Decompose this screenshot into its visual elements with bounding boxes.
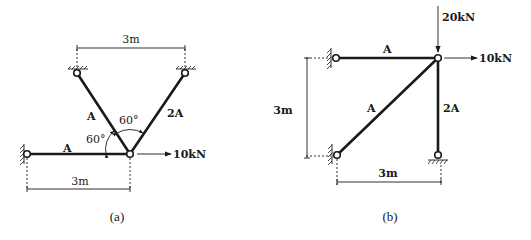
figure-caption-a: (a) — [110, 209, 124, 224]
angle-arc-top — [117, 130, 143, 133]
pin-joint — [74, 70, 81, 77]
dimension-label: 3m — [71, 175, 89, 188]
pin-joint — [182, 70, 189, 77]
load-label-vertical: 20kN — [442, 11, 475, 24]
dimension-label: 3m — [378, 167, 398, 180]
dimension-bottom-a: 3m — [27, 158, 130, 192]
angle-label-top: 60° — [119, 114, 139, 127]
load-label: 10kN — [173, 148, 206, 161]
member-diagonal-b — [337, 58, 438, 155]
pin-joint — [435, 152, 442, 159]
ground-support-b — [428, 160, 448, 164]
dimension-left-b: 3m — [273, 58, 331, 158]
figure-caption-b: (b) — [382, 209, 397, 224]
load-label-horizontal: 10kN — [479, 52, 512, 65]
area-label-vertical: 2A — [443, 102, 460, 115]
pin-joint — [127, 151, 134, 158]
dimension-top-a: 3m — [77, 33, 185, 68]
truss-diagrams: 3m — [0, 0, 531, 240]
dimension-label: 3m — [273, 104, 293, 117]
figure-a: 3m — [20, 33, 206, 224]
dimension-bottom-b: 3m — [337, 159, 441, 185]
area-label-diagonal: A — [366, 102, 376, 115]
area-label-left-inclined: A — [86, 110, 96, 123]
pin-joint — [333, 55, 340, 62]
angle-arc-left — [106, 131, 114, 154]
area-label-horizontal: A — [62, 142, 72, 155]
area-label-top-horizontal: A — [382, 43, 392, 56]
pin-joint — [334, 152, 341, 159]
ceiling-support-left — [68, 66, 88, 69]
area-label-right-inclined: 2A — [167, 107, 184, 120]
figure-b: A A 2A 20kN 10kN 3m 3m — [273, 6, 512, 224]
pin-joint — [435, 55, 442, 62]
wall-support-bottom-b — [328, 144, 332, 165]
angle-label-left: 60° — [86, 133, 106, 146]
dimension-label: 3m — [122, 33, 140, 46]
ceiling-support-right — [176, 66, 196, 69]
wall-support-top-b — [327, 48, 331, 69]
pin-joint — [24, 151, 31, 158]
